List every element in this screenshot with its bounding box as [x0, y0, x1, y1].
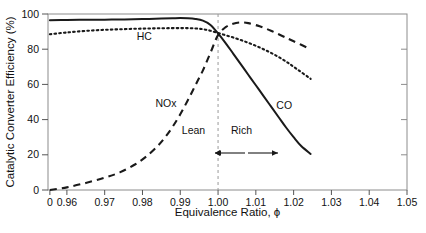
annotation-rich: Rich: [231, 124, 252, 136]
chart-figure: 0 20 40 60 80 100 00.960.970.980.991.001…: [0, 0, 426, 233]
series-label-nox: NOx: [155, 97, 177, 109]
plot-frame: [48, 14, 407, 190]
y-tick-label: 60: [27, 78, 39, 90]
y-axis-ticks: [42, 14, 48, 190]
x-tick-label: 0.96: [57, 196, 78, 208]
x-tick-label: 1.04: [359, 196, 380, 208]
x-tick-label: 0.97: [94, 196, 115, 208]
x-tick-label: 0: [47, 196, 53, 208]
x-axis-ticks: [50, 190, 407, 195]
annotation-lean: Lean: [182, 124, 206, 136]
x-axis-title: Equivalence Ratio, ϕ: [175, 206, 281, 218]
y-tick-label: 0: [33, 184, 39, 196]
x-tick-label: 1.03: [321, 196, 342, 208]
y-axis-title: Catalytic Converter Efficiency (%): [4, 16, 16, 187]
y-axis-tick-labels: 0 20 40 60 80 100: [21, 8, 39, 196]
x-tick-label: 1.02: [283, 196, 304, 208]
chart-svg: 0 20 40 60 80 100 00.960.970.980.991.001…: [0, 0, 426, 233]
series-label-hc: HC: [137, 30, 153, 42]
y-tick-label: 80: [27, 43, 39, 55]
y-tick-label: 40: [27, 113, 39, 125]
x-tick-label: 0.98: [132, 196, 153, 208]
x-tick-label: 1.05: [397, 196, 418, 208]
y-tick-label: 100: [21, 8, 39, 20]
series-label-co: CO: [276, 99, 292, 111]
y-tick-label: 20: [27, 148, 39, 160]
